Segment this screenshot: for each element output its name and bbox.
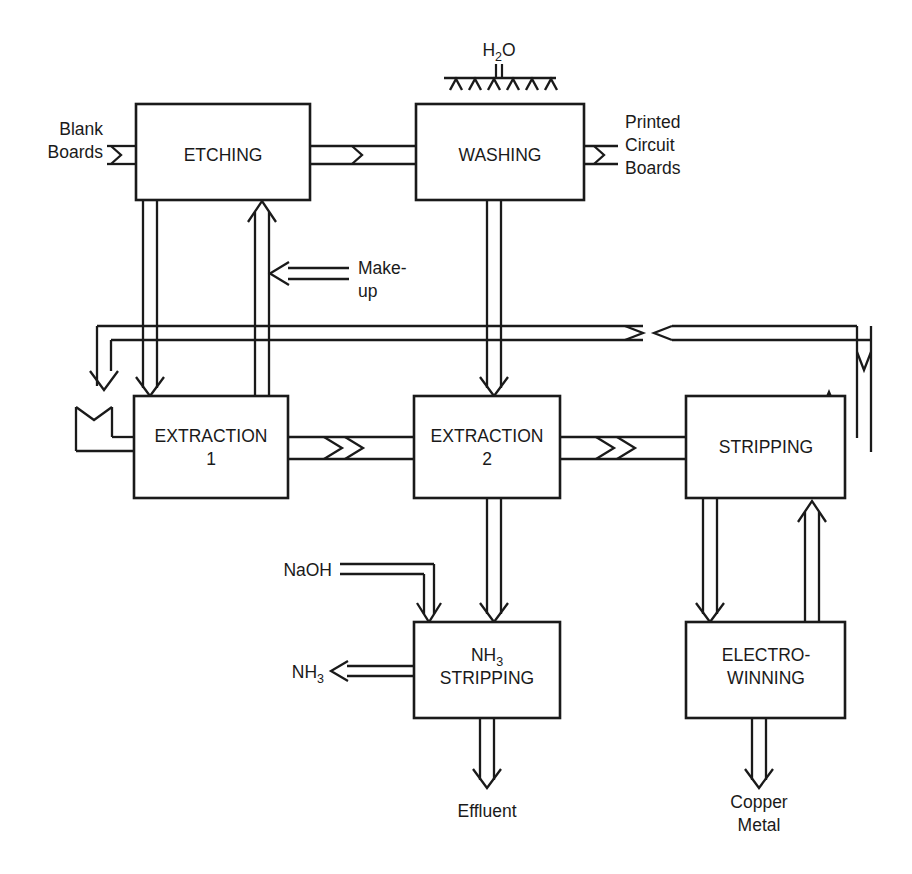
strip-ew-arrowhead xyxy=(696,603,724,622)
extraction1-to-etching-return-pipe xyxy=(248,201,276,396)
spray-nozzle-5 xyxy=(526,79,538,90)
nh3-vent-arrowhead xyxy=(331,661,348,681)
extraction1-left-feed-pipe xyxy=(76,407,134,451)
ext1-etch-arrowhead xyxy=(248,201,276,222)
naoh-feed-pipe xyxy=(340,564,441,622)
unit-box-extraction1[interactable] xyxy=(134,396,288,498)
makeup-feed-arrow xyxy=(270,262,349,285)
naoh-arrowhead xyxy=(417,603,441,622)
spray-nozzle-3 xyxy=(488,79,500,90)
ext1-ext2-chevron xyxy=(345,437,363,459)
ammonia-label-sub: 3 xyxy=(317,672,324,686)
ext2-strip-arrowhead xyxy=(596,437,614,459)
ext1-ext2-arrowhead xyxy=(324,437,342,459)
stream-label-makeup-line2: up xyxy=(358,281,377,301)
unit-label-etching: ETCHING xyxy=(184,145,263,165)
unit-box-extraction2[interactable] xyxy=(414,396,560,498)
blank-boards-inlet-pipe xyxy=(107,146,136,164)
etching-to-extraction1-pipe xyxy=(136,200,164,396)
stream-label-copper-metal-line1: Copper xyxy=(730,792,788,812)
water-label-tail: O xyxy=(502,40,516,60)
ext2-strip-chevron xyxy=(617,437,635,459)
unit-label-extraction2-line2: 2 xyxy=(482,449,492,469)
stream-label-printed-boards-line3: Boards xyxy=(625,158,681,178)
unit-label-extraction2-line1: EXTRACTION xyxy=(431,426,544,446)
unit-label-stripping: STRIPPING xyxy=(719,437,813,457)
water-label-main: H xyxy=(482,40,495,60)
effluent-arrowhead xyxy=(473,769,501,788)
stream-label-ammonia-vent: NH3 xyxy=(292,662,324,686)
ext1-feed-chevron xyxy=(76,407,112,420)
copper-arrowhead xyxy=(745,769,773,788)
spray-nozzle-1 xyxy=(450,79,462,90)
extraction2-to-stripping-pipe xyxy=(560,437,686,459)
spray-nozzle-2 xyxy=(469,79,481,90)
recycle-chevron-notch xyxy=(625,326,643,340)
ammonia-label-main: NH xyxy=(292,662,317,682)
water-spray-header-group xyxy=(444,64,557,90)
copper-metal-outlet-pipe xyxy=(745,718,773,788)
ammonia-vent-pipe xyxy=(331,661,414,681)
recycle-down-chevron xyxy=(857,352,871,370)
process-flow-diagram: ETCHING WASHING EXTRACTION 1 EXTRACTION … xyxy=(0,0,912,874)
stream-label-blank-boards-line1: Blank xyxy=(59,119,103,139)
unit-label-extraction1-line2: 1 xyxy=(206,449,216,469)
wash-ext2-arrowhead xyxy=(480,377,508,396)
flowsheet-canvas: ETCHING WASHING EXTRACTION 1 EXTRACTION … xyxy=(0,0,912,874)
etching-to-washing-pipe xyxy=(310,146,416,164)
extraction1-to-extraction2-pipe xyxy=(288,437,414,459)
unit-label-washing: WASHING xyxy=(459,145,542,165)
ew-strip-arrowhead xyxy=(798,501,826,522)
ext2-nh3-arrowhead xyxy=(480,603,508,622)
spray-nozzle-6 xyxy=(545,79,557,90)
unit-label-extraction1-line1: EXTRACTION xyxy=(155,426,268,446)
stream-label-water-feed: H2O xyxy=(482,40,515,64)
unit-label-electrowinning-line2: WINNING xyxy=(727,668,805,688)
etch-ext1-arrowhead xyxy=(136,377,164,396)
stripping-to-electrowinning-pipe xyxy=(696,498,724,622)
pcb-outlet-chevron xyxy=(594,146,604,164)
recycle-down-chevron-group xyxy=(857,352,871,370)
stream-label-printed-boards-line2: Circuit xyxy=(625,135,675,155)
stream-label-blank-boards-line2: Boards xyxy=(48,142,104,162)
spray-nozzle-4 xyxy=(507,79,519,90)
blank-inlet-chevron xyxy=(111,146,121,164)
extraction2-to-nh3stripping-pipe xyxy=(480,498,508,622)
effluent-outlet-pipe xyxy=(473,718,501,788)
unit-label-nh3-stripping-line2: STRIPPING xyxy=(440,668,534,688)
makeup-arrowhead xyxy=(270,262,289,285)
recycle-left-arrowhead xyxy=(90,371,118,390)
electrowinning-to-stripping-return-pipe xyxy=(798,501,826,622)
nh3-label-main: NH xyxy=(471,645,496,665)
printed-boards-outlet-pipe xyxy=(584,146,618,164)
unit-label-electrowinning-line1: ELECTRO- xyxy=(722,645,811,665)
washing-to-extraction2-pipe xyxy=(480,200,508,396)
stream-label-printed-boards-line1: Printed xyxy=(625,112,680,132)
stream-label-effluent: Effluent xyxy=(457,801,516,821)
nh3-label-sub: 3 xyxy=(496,655,503,669)
stream-label-copper-metal-line2: Metal xyxy=(738,815,781,835)
stream-label-makeup-line1: Make- xyxy=(358,258,407,278)
water-label-sub: 2 xyxy=(495,50,502,64)
etch-wash-chevron xyxy=(352,146,362,164)
recycle-arrowhead-mid xyxy=(654,326,672,340)
stream-label-naoh: NaOH xyxy=(283,560,332,580)
